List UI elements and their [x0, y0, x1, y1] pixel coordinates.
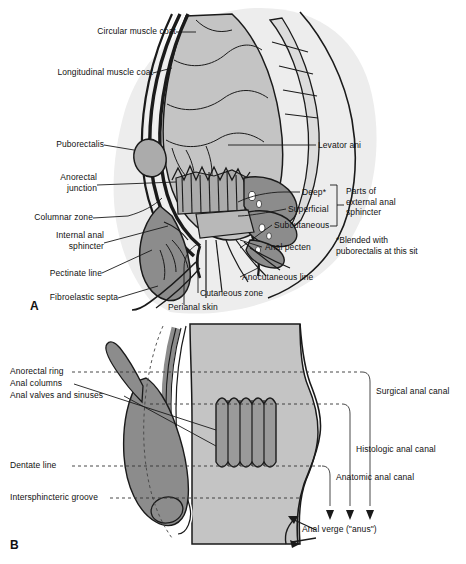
label-internal-anal-sphincter: Internal anal sphincter — [8, 230, 104, 251]
canal-bracket-connectors — [322, 372, 370, 506]
label-anorectal-ring: Anorectal ring — [10, 366, 64, 377]
label-anatomic-anal-canal: Anatomic anal canal — [336, 472, 414, 483]
panel-b-illustration — [0, 320, 466, 564]
panel-b: Anorectal ring Anal columns Anal valves … — [0, 320, 466, 564]
label-anocutaneous-line: Anocutaneous line — [242, 272, 313, 283]
label-parts-of-external-anal-sphincter: Parts of external anal sphincter — [346, 186, 396, 218]
panel-b-letter: B — [10, 538, 19, 552]
label-anal-verge: Anal verge ("anus") — [302, 524, 377, 535]
label-puborectalis: Puborectalis — [8, 139, 104, 150]
label-histologic-anal-canal: Histologic anal canal — [356, 444, 436, 455]
panel-a: Circular muscle coat Longitudinal muscle… — [0, 0, 466, 320]
label-superficial: Superficial — [288, 204, 329, 215]
label-circular-muscle-coat: Circular muscle coat — [8, 26, 176, 37]
label-subcutaneous: Subcutaneous — [274, 220, 329, 231]
label-cutaneous-zone: Cutaneous zone — [200, 288, 263, 299]
label-anorectal-junction: Anorectal junction — [8, 172, 97, 193]
canal-arrowheads — [326, 510, 374, 520]
label-dentate-line: Dentate line — [10, 460, 56, 471]
label-intersphincteric-groove: Intersphincteric groove — [10, 492, 98, 503]
levator-arm — [106, 342, 143, 402]
label-pectinate-line: Pectinate line — [8, 268, 102, 279]
label-fibroelastic-septa: Fibroelastic septa — [8, 292, 118, 303]
label-deep: Deep* — [302, 187, 326, 198]
label-levator-ani: Levator ani — [318, 140, 361, 151]
footnote-blended-with-puborectalis: *Blended with puborectalis at this sit — [336, 235, 418, 256]
label-anal-columns: Anal columns — [10, 378, 62, 389]
panel-a-letter: A — [30, 299, 39, 313]
anal-columns-block — [216, 398, 276, 467]
label-columnar-zone: Columnar zone — [8, 212, 93, 223]
label-anal-valves-and-sinuses: Anal valves and sinuses — [10, 390, 103, 401]
label-longitudinal-muscle-coat: Longitudinal muscle coat — [8, 67, 153, 78]
label-surgical-anal-canal: Surgical anal canal — [376, 386, 449, 397]
label-anal-pecten: Anal pecten — [265, 242, 311, 253]
figure-root: Circular muscle coat Longitudinal muscle… — [0, 0, 466, 564]
label-perianal-skin: Perianal skin — [168, 302, 218, 313]
